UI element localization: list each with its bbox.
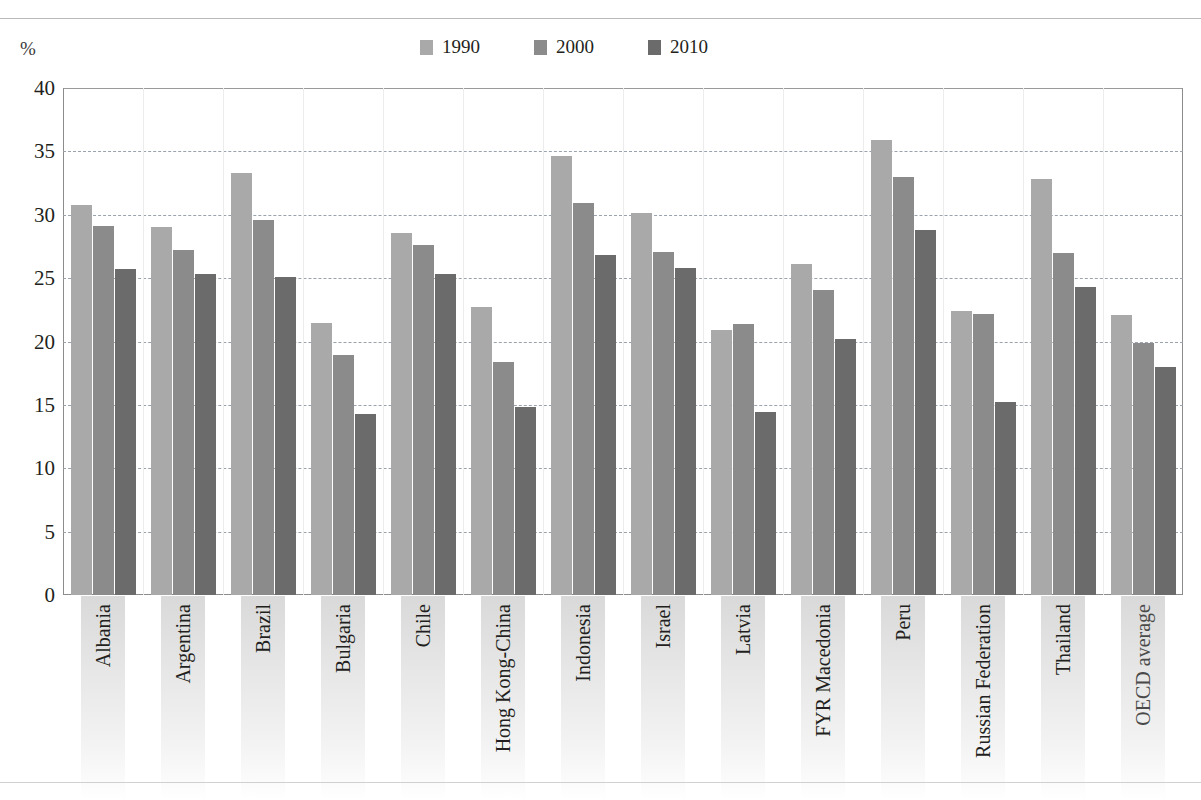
bar-group-oecd-average	[1103, 88, 1183, 595]
category-label-cell: Brazil	[223, 596, 303, 800]
category-label-cell: Russian Federation	[943, 596, 1023, 800]
y-axis-tick-5: 5	[7, 519, 55, 544]
y-axis-tick-20: 20	[7, 329, 55, 354]
category-label-thailand: Thailand	[1053, 604, 1073, 675]
bar-1990-chile	[391, 233, 412, 596]
bar-2000-oecd-average	[1133, 343, 1154, 595]
top-caption	[0, 0, 1201, 7]
bar-group-brazil	[223, 88, 303, 595]
category-label-indonesia: Indonesia	[573, 604, 593, 682]
category-label-cell: Albania	[63, 596, 143, 800]
y-axis-tick-25: 25	[7, 266, 55, 291]
bar-group-bulgaria	[303, 88, 383, 595]
y-axis: 4035302520151050	[0, 88, 55, 595]
bar-2000-latvia	[733, 324, 754, 595]
bar-1990-albania	[71, 205, 92, 595]
bar-2010-israel	[675, 268, 696, 595]
bar-2010-bulgaria	[355, 414, 376, 595]
bar-2000-indonesia	[573, 203, 594, 595]
y-axis-tick-40: 40	[7, 76, 55, 101]
bar-group-hong-kong-china	[463, 88, 543, 595]
bar-1990-russian-federation	[951, 311, 972, 595]
bar-group-thailand	[1023, 88, 1103, 595]
y-axis-tick-10: 10	[7, 456, 55, 481]
bar-1990-thailand	[1031, 179, 1052, 595]
bar-group-argentina	[143, 88, 223, 595]
y-axis-tick-15: 15	[7, 392, 55, 417]
category-label-bulgaria: Bulgaria	[333, 604, 353, 673]
category-label-brazil: Brazil	[253, 604, 273, 653]
bar-group-fyr-macedonia	[783, 88, 863, 595]
bar-1990-bulgaria	[311, 323, 332, 596]
bar-2010-russian-federation	[995, 402, 1016, 595]
bar-2000-thailand	[1053, 253, 1074, 595]
bar-1990-hong-kong-china	[471, 307, 492, 595]
bar-1990-latvia	[711, 330, 732, 595]
bar-group-chile	[383, 88, 463, 595]
plot-area	[63, 88, 1183, 595]
category-label-albania: Albania	[93, 604, 113, 667]
category-label-cell: Latvia	[703, 596, 783, 800]
category-label-russian-federation: Russian Federation	[973, 604, 993, 758]
bar-2010-chile	[435, 274, 456, 595]
category-label-cell: Bulgaria	[303, 596, 383, 800]
category-label-cell: Thailand	[1023, 596, 1103, 800]
bar-2000-peru	[893, 177, 914, 595]
chart-page: % 199020002010 4035302520151050 AlbaniaA…	[0, 0, 1201, 800]
category-label-cell: OECD average	[1103, 596, 1183, 800]
category-label-latvia: Latvia	[733, 604, 753, 655]
category-label-peru: Peru	[893, 604, 913, 641]
legend-swatch-icon	[648, 40, 661, 55]
percent-axis-label: %	[20, 38, 36, 60]
legend-label: 2000	[556, 36, 594, 58]
bar-2010-argentina	[195, 274, 216, 595]
bar-2010-albania	[115, 269, 136, 595]
bar-2000-albania	[93, 226, 114, 595]
category-label-cell: Israel	[623, 596, 703, 800]
bottom-divider	[0, 782, 1201, 783]
bar-1990-oecd-average	[1111, 315, 1132, 595]
bar-2010-indonesia	[595, 255, 616, 595]
category-label-band: AlbaniaArgentinaBrazilBulgariaChileHong …	[63, 596, 1183, 800]
bar-2000-brazil	[253, 220, 274, 595]
legend-item-1990: 1990	[420, 36, 480, 58]
category-label-cell: Peru	[863, 596, 943, 800]
category-label-oecd-average: OECD average	[1133, 604, 1153, 726]
y-axis-tick-0: 0	[7, 583, 55, 608]
category-label-chile: Chile	[413, 604, 433, 647]
category-label-cell: FYR Macedonia	[783, 596, 863, 800]
category-label-argentina: Argentina	[173, 604, 193, 684]
bar-2000-russian-federation	[973, 314, 994, 595]
bar-2010-brazil	[275, 277, 296, 595]
category-label-cell: Chile	[383, 596, 463, 800]
bar-2010-oecd-average	[1155, 367, 1176, 595]
bar-group-russian-federation	[943, 88, 1023, 595]
legend-item-2010: 2010	[648, 36, 708, 58]
bar-1990-peru	[871, 140, 892, 595]
bar-2000-argentina	[173, 250, 194, 595]
top-divider	[0, 18, 1201, 19]
bar-2010-hong-kong-china	[515, 407, 536, 595]
bar-2000-israel	[653, 252, 674, 595]
category-label-hong-kong-china: Hong Kong-China	[493, 604, 513, 752]
category-label-cell: Indonesia	[543, 596, 623, 800]
legend-swatch-icon	[420, 40, 433, 55]
bar-group-latvia	[703, 88, 783, 595]
bar-2010-peru	[915, 230, 936, 595]
category-label-cell: Hong Kong-China	[463, 596, 543, 800]
bar-1990-argentina	[151, 227, 172, 595]
bar-group-albania	[63, 88, 143, 595]
bar-1990-israel	[631, 213, 652, 595]
bar-group-indonesia	[543, 88, 623, 595]
bar-group-israel	[623, 88, 703, 595]
y-axis-tick-35: 35	[7, 139, 55, 164]
bar-2010-latvia	[755, 412, 776, 595]
legend-label: 1990	[442, 36, 480, 58]
category-label-fyr-macedonia: FYR Macedonia	[813, 604, 833, 737]
legend-label: 2010	[670, 36, 708, 58]
bar-2000-chile	[413, 245, 434, 595]
bar-1990-fyr-macedonia	[791, 264, 812, 595]
bar-2010-fyr-macedonia	[835, 339, 856, 595]
category-label-cell: Argentina	[143, 596, 223, 800]
category-label-israel: Israel	[653, 604, 673, 648]
